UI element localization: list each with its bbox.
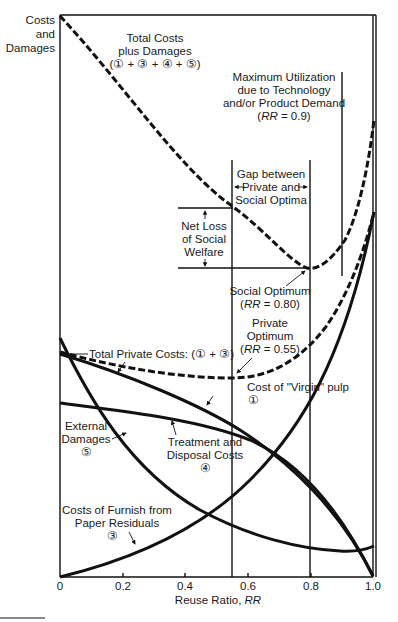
svg-text:(RR = 0.55): (RR = 0.55) <box>240 343 300 355</box>
virgin-pulp-arrow <box>207 396 213 405</box>
tick-label: 0.8 <box>303 580 319 592</box>
svg-text:(RR = 0.80): (RR = 0.80) <box>240 298 300 310</box>
svg-text:Total Private Costs: (① + ③): Total Private Costs: (① + ③) <box>89 348 234 360</box>
svg-text:Private and: Private and <box>242 181 300 193</box>
treatment-disposal-arrow <box>172 421 176 435</box>
y-axis-label: Costs and Damages <box>6 14 55 54</box>
svg-text:Cost of "Virgin" pulp: Cost of "Virgin" pulp <box>247 381 349 393</box>
svg-text:Private: Private <box>252 317 288 329</box>
svg-text:①: ① <box>248 394 259 406</box>
private-optimum-label: Private Optimum (RR = 0.55) <box>237 317 300 373</box>
external-damages-label: External Damages ⑤ <box>61 420 126 458</box>
virgin-pulp-label: Cost of "Virgin" pulp ① <box>207 381 349 406</box>
svg-text:and/or Product Demand: and/or Product Demand <box>223 97 345 109</box>
max-utilization-label: Maximum Utilization due to Technology an… <box>223 71 345 122</box>
svg-text:Damages: Damages <box>61 433 110 445</box>
tick-label: 0.6 <box>240 580 256 592</box>
furnish-residuals-arrow <box>129 532 135 544</box>
tick-label: 0.2 <box>115 580 131 592</box>
svg-text:Net Loss: Net Loss <box>181 220 227 232</box>
social-optimum-label: Social Optimum (RR = 0.80) <box>229 271 310 310</box>
svg-text:④: ④ <box>200 462 211 474</box>
svg-text:Costs of Furnish from: Costs of Furnish from <box>62 504 172 516</box>
svg-text:③: ③ <box>107 530 118 542</box>
svg-text:Optimum: Optimum <box>247 330 294 342</box>
ylabel-line-1: Costs <box>26 14 56 26</box>
tick-label: 1.0 <box>365 580 381 592</box>
ylabel-line-3: Damages <box>6 42 55 54</box>
svg-text:External: External <box>65 420 107 432</box>
x-ticks: 0 0.2 0.4 0.6 0.8 1.0 <box>57 573 381 592</box>
svg-text:Welfare: Welfare <box>184 246 223 258</box>
tick-label: 0.4 <box>177 580 194 592</box>
x-axis-label: Reuse Ratio, RR <box>175 594 261 606</box>
private-optimum-arrow <box>237 358 252 373</box>
gap-label: Gap between Private and Social Optima <box>235 168 307 206</box>
svg-text:plus Damages: plus Damages <box>118 45 192 57</box>
furnish-residuals-label: Costs of Furnish from Paper Residuals ③ <box>62 504 172 544</box>
svg-text:Paper Residuals: Paper Residuals <box>75 517 160 529</box>
tick-label: 0 <box>57 580 63 592</box>
svg-text:Gap between: Gap between <box>237 168 305 180</box>
svg-text:due to Technology: due to Technology <box>237 84 330 96</box>
svg-text:⑤: ⑤ <box>81 446 92 458</box>
svg-text:of Social: of Social <box>182 233 226 245</box>
social-optimum-arrow <box>286 271 305 286</box>
svg-text:Social Optimum: Social Optimum <box>229 285 310 297</box>
svg-text:(① + ③ + ④ + ⑤): (① + ③ + ④ + ⑤) <box>110 58 201 70</box>
net-loss-label: Net Loss of Social Welfare <box>181 211 227 266</box>
chart: Costs and Damages 0 0.2 0.4 0.6 0.8 1.0 … <box>0 0 398 622</box>
svg-text:(RR = 0.9): (RR = 0.9) <box>257 110 311 122</box>
svg-text:Total Costs: Total Costs <box>127 32 184 44</box>
svg-text:Disposal Costs: Disposal Costs <box>167 449 244 461</box>
svg-text:Treatment and: Treatment and <box>168 436 242 448</box>
svg-text:Social Optima: Social Optima <box>235 194 307 206</box>
svg-text:Maximum Utilization: Maximum Utilization <box>233 71 336 83</box>
total-costs-label: Total Costs plus Damages (① + ③ + ④ + ⑤) <box>110 32 201 70</box>
ylabel-line-2: and <box>36 28 55 40</box>
